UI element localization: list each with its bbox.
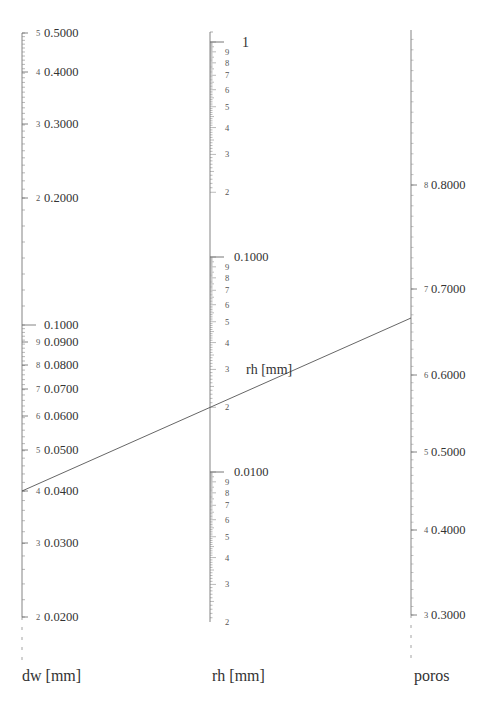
svg-text:3: 3 <box>225 364 229 374</box>
svg-text:4: 4 <box>225 553 230 563</box>
svg-text:3: 3 <box>36 538 40 548</box>
svg-text:4: 4 <box>36 67 41 77</box>
svg-text:0.3000: 0.3000 <box>44 117 78 131</box>
svg-text:3: 3 <box>36 119 40 129</box>
svg-text:0.3000: 0.3000 <box>431 608 465 622</box>
svg-text:0.1000: 0.1000 <box>44 318 78 332</box>
svg-text:4: 4 <box>225 338 230 348</box>
svg-text:9: 9 <box>225 477 229 487</box>
svg-text:8: 8 <box>36 360 40 370</box>
svg-text:2: 2 <box>225 187 229 197</box>
svg-text:0.1000: 0.1000 <box>234 250 268 264</box>
svg-text:8: 8 <box>225 58 229 68</box>
svg-text:0.8000: 0.8000 <box>431 178 465 192</box>
svg-text:0.0500: 0.0500 <box>44 443 78 457</box>
svg-text:0.0400: 0.0400 <box>44 484 78 498</box>
svg-text:6: 6 <box>225 85 229 95</box>
svg-text:1: 1 <box>242 35 249 50</box>
svg-text:6: 6 <box>225 300 229 310</box>
svg-text:2: 2 <box>225 617 229 627</box>
svg-text:2: 2 <box>36 193 40 203</box>
nomogram-chart: 50.500040.400030.300020.20000.100090.090… <box>0 0 483 701</box>
svg-text:9: 9 <box>225 262 229 272</box>
svg-text:7: 7 <box>225 500 229 510</box>
svg-text:5: 5 <box>225 102 229 112</box>
svg-text:0.0200: 0.0200 <box>44 610 78 624</box>
svg-text:3: 3 <box>424 610 428 620</box>
svg-text:5: 5 <box>424 447 428 457</box>
svg-text:7: 7 <box>424 284 428 294</box>
svg-text:0.0300: 0.0300 <box>44 536 78 550</box>
svg-text:3: 3 <box>225 579 229 589</box>
svg-text:5: 5 <box>36 445 40 455</box>
svg-text:0.4000: 0.4000 <box>44 65 78 79</box>
svg-text:8: 8 <box>225 488 229 498</box>
svg-text:4: 4 <box>36 486 41 496</box>
rh-axis: 1987654320.1000987654320.010098765432 <box>210 32 268 627</box>
svg-text:6: 6 <box>424 370 428 380</box>
dw-axis: 50.500040.400030.300020.20000.100090.090… <box>22 26 78 665</box>
svg-text:0.0600: 0.0600 <box>44 409 78 423</box>
svg-text:0.0100: 0.0100 <box>234 465 268 479</box>
svg-text:0.2000: 0.2000 <box>44 191 78 205</box>
svg-text:0.6000: 0.6000 <box>431 368 465 382</box>
svg-text:5: 5 <box>36 28 40 38</box>
svg-text:2: 2 <box>36 612 40 622</box>
rh-inline-label: rh [mm] <box>246 362 292 377</box>
svg-text:9: 9 <box>36 337 40 347</box>
svg-text:0.4000: 0.4000 <box>431 523 465 537</box>
svg-text:7: 7 <box>225 285 229 295</box>
svg-text:0.0900: 0.0900 <box>44 335 78 349</box>
poros-axis-title: poros <box>414 667 450 685</box>
svg-text:4: 4 <box>225 123 230 133</box>
svg-text:5: 5 <box>225 317 229 327</box>
svg-text:0.5000: 0.5000 <box>44 26 78 40</box>
svg-text:7: 7 <box>225 70 229 80</box>
dw-axis-title: dw [mm] <box>22 667 81 685</box>
svg-text:0.0800: 0.0800 <box>44 358 78 372</box>
svg-text:4: 4 <box>424 525 429 535</box>
svg-text:5: 5 <box>225 532 229 542</box>
svg-text:7: 7 <box>36 384 40 394</box>
poros-axis: 80.800070.700060.600050.500040.400030.30… <box>411 30 465 665</box>
svg-text:0.5000: 0.5000 <box>431 445 465 459</box>
isopleth-line <box>22 318 411 491</box>
svg-text:8: 8 <box>225 273 229 283</box>
svg-text:2: 2 <box>225 402 229 412</box>
svg-text:3: 3 <box>225 149 229 159</box>
rh-axis-title: rh [mm] <box>212 667 265 685</box>
svg-text:0.0700: 0.0700 <box>44 382 78 396</box>
svg-text:9: 9 <box>225 47 229 57</box>
svg-text:8: 8 <box>424 180 428 190</box>
svg-text:0.7000: 0.7000 <box>431 282 465 296</box>
svg-text:6: 6 <box>36 411 40 421</box>
svg-text:6: 6 <box>225 515 229 525</box>
